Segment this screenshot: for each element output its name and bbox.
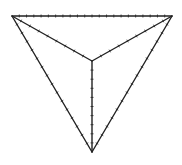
edge-top_left-top_right (12, 15, 172, 18)
edge-top_left-bottom (12, 16, 92, 152)
edge-top_right-bottom (92, 16, 172, 152)
pyramid-diagram (0, 0, 182, 165)
edge-top_left-center (12, 16, 92, 61)
edge-top_right-center (92, 16, 172, 61)
edge-center-bottom (91, 61, 94, 152)
